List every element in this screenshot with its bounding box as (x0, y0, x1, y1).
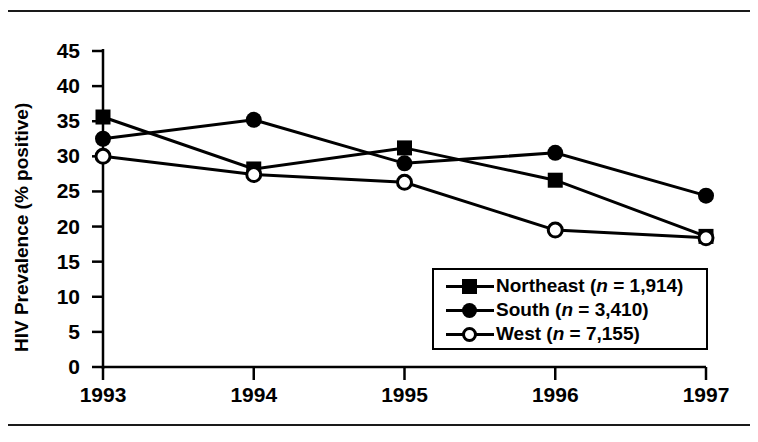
legend-item-label: West (n = 7,155) (496, 323, 640, 345)
y-axis-ticks (92, 51, 103, 367)
legend-item-label: Northeast (n = 1,914) (496, 275, 683, 297)
legend-item-west: West (n = 7,155) (434, 322, 706, 346)
chart-legend: Northeast (n = 1,914)South (n = 3,410)We… (432, 268, 708, 350)
data-point-marker (397, 140, 412, 155)
x-axis-tick-label: 1993 (58, 384, 148, 405)
data-point-marker (247, 168, 261, 182)
data-point-marker (548, 223, 562, 237)
y-axis-tick-label: 10 (38, 286, 80, 307)
y-axis-tick-label: 25 (38, 180, 80, 201)
data-point-marker (547, 145, 563, 161)
y-axis-tick-label: 0 (38, 356, 80, 377)
y-axis-tick-label: 45 (38, 40, 80, 61)
y-axis-tick-label: 30 (38, 145, 80, 166)
x-axis-tick-label: 1995 (360, 384, 450, 405)
data-point-marker (398, 175, 412, 189)
x-axis-tick-label: 1997 (661, 384, 751, 405)
data-point-marker (95, 131, 111, 147)
y-axis-tick-label: 5 (38, 321, 80, 342)
data-series-group (95, 110, 714, 245)
data-point-marker (397, 155, 413, 171)
data-point-marker (548, 173, 563, 188)
data-point-marker (699, 231, 713, 245)
chart-plot-area (0, 0, 758, 442)
x-axis-tick-label: 1994 (209, 384, 299, 405)
data-point-marker (96, 149, 110, 163)
y-axis-tick-label: 15 (38, 251, 80, 272)
legend-item-south: South (n = 3,410) (434, 298, 706, 322)
x-axis-ticks (103, 367, 706, 380)
figure-root: HIV Prevalence (% positive) 051015202530… (0, 0, 758, 442)
legend-marker-icon (444, 323, 496, 345)
data-point-marker (246, 112, 262, 128)
legend-marker-icon (444, 299, 496, 321)
y-axis-tick-label: 35 (38, 110, 80, 131)
data-point-marker (698, 188, 714, 204)
legend-item-label: South (n = 3,410) (496, 299, 649, 321)
data-point-marker (96, 110, 111, 125)
legend-marker-icon (444, 275, 496, 297)
x-axis-tick-label: 1996 (510, 384, 600, 405)
y-axis-tick-label: 20 (38, 216, 80, 237)
y-axis-tick-label: 40 (38, 75, 80, 96)
legend-item-northeast: Northeast (n = 1,914) (434, 274, 706, 298)
